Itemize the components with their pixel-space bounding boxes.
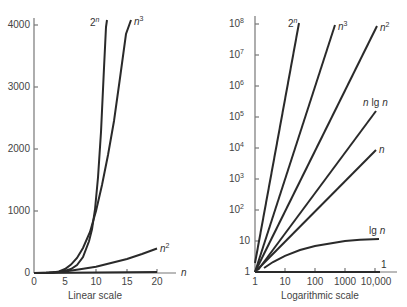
curve-lg-n-log	[264, 239, 379, 268]
log-x-ticks: 1 10 100 1000 10,000	[252, 268, 392, 287]
y-tick-label: 105	[229, 110, 244, 122]
y-tick-label: 107	[229, 48, 244, 60]
label-lg-n-log: lgn	[369, 225, 386, 236]
log-caption: Logarithmic scale	[281, 290, 359, 301]
label-n-log: n	[379, 144, 385, 155]
curve-n-linear	[34, 272, 157, 273]
y-tick-label: 104	[229, 141, 244, 153]
label-n-lg-n-log: nlgn	[363, 97, 388, 108]
x-tick-label: 5	[62, 276, 68, 287]
curve-n-cubed	[34, 20, 131, 273]
x-tick-label: 1	[252, 276, 258, 287]
label-2-pow-n-log: 2n	[288, 17, 298, 29]
y-tick-label: 1	[244, 266, 250, 277]
x-tick-label: 0	[31, 276, 37, 287]
y-tick-label: 2000	[8, 143, 31, 154]
x-tick-label: 10	[279, 276, 291, 287]
y-tick-label: 3000	[8, 81, 31, 92]
x-tick-label: 1000	[334, 276, 357, 287]
curve-2-pow-n	[34, 20, 107, 273]
x-tick-label: 20	[151, 276, 163, 287]
x-tick-label: 10,000	[361, 276, 392, 287]
log-chart: 1 10 102 103 104 105 106 107 108 1 10 10…	[229, 16, 397, 301]
x-axis-symbol: n	[181, 267, 187, 278]
linear-caption: Linear scale	[68, 290, 122, 301]
linear-x-ticks: 0 5 10 15 20 n	[31, 267, 187, 287]
label-2-pow-n: 2n	[90, 16, 100, 28]
curve-n-squared-log	[255, 26, 377, 272]
x-tick-label: 15	[121, 276, 133, 287]
y-tick-label: 108	[229, 17, 244, 29]
label-n-cubed-log: n3	[338, 20, 348, 32]
label-constant-log: 1	[381, 259, 387, 270]
label-n-squared-log: n2	[380, 21, 390, 33]
y-tick-label: 4000	[8, 19, 31, 30]
label-n-squared: n2	[160, 242, 170, 254]
y-tick-label: 106	[229, 79, 244, 91]
y-tick-label: 0	[24, 267, 30, 278]
y-tick-label: 103	[229, 172, 244, 184]
x-tick-label: 100	[307, 276, 324, 287]
x-tick-label: 10	[90, 276, 102, 287]
linear-chart: 0 1000 2000 3000 4000 0 5 10 15 20 n 2n …	[8, 15, 187, 301]
y-tick-label: 10	[239, 235, 251, 246]
curve-n-cubed-log	[255, 25, 335, 272]
label-n-cubed: n3	[134, 15, 144, 27]
y-tick-label: 102	[229, 203, 244, 215]
y-tick-label: 1000	[8, 205, 31, 216]
growth-rate-charts: 0 1000 2000 3000 4000 0 5 10 15 20 n 2n …	[0, 0, 407, 307]
